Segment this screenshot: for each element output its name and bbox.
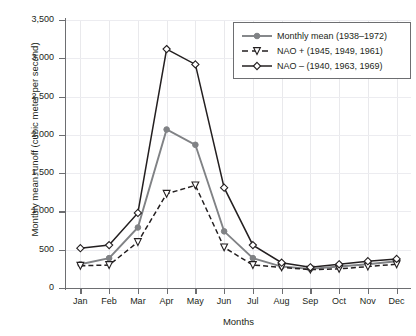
legend-label: NAO + (1945, 1949, 1961): [274, 46, 383, 56]
data-point: [163, 45, 170, 52]
data-point: [221, 184, 228, 191]
data-point: [135, 225, 141, 231]
data-point: [249, 242, 256, 249]
series-line: [80, 185, 396, 269]
data-point: [134, 239, 141, 246]
legend-marker-open-diamond: [240, 59, 274, 73]
data-point: [192, 61, 199, 68]
legend-marker-filled-circle: [240, 29, 274, 43]
data-point: [77, 245, 84, 252]
data-point: [221, 244, 228, 251]
series-1: [78, 127, 400, 272]
series-line: [80, 49, 396, 267]
data-point: [192, 182, 199, 189]
legend-item: NAO – (1940, 1963, 1969): [240, 58, 404, 73]
chart-root: Monthly mean runoff (cubic meter per sec…: [0, 0, 416, 336]
data-point: [250, 255, 256, 261]
legend-label: Monthly mean (1938–1972): [274, 31, 387, 41]
data-point: [193, 142, 199, 148]
series-line: [80, 129, 396, 268]
x-axis-title: Months: [66, 316, 411, 327]
legend-item: NAO + (1945, 1949, 1961): [240, 43, 404, 58]
legend-item: Monthly mean (1938–1972): [240, 28, 404, 43]
legend-marker-open-triangle-down: [240, 44, 274, 58]
legend: Monthly mean (1938–1972)NAO + (1945, 194…: [233, 22, 411, 79]
series-3: [77, 45, 400, 270]
data-point: [164, 127, 170, 133]
data-point: [221, 229, 227, 235]
legend-label: NAO – (1940, 1963, 1969): [274, 61, 383, 71]
data-point: [106, 255, 112, 261]
